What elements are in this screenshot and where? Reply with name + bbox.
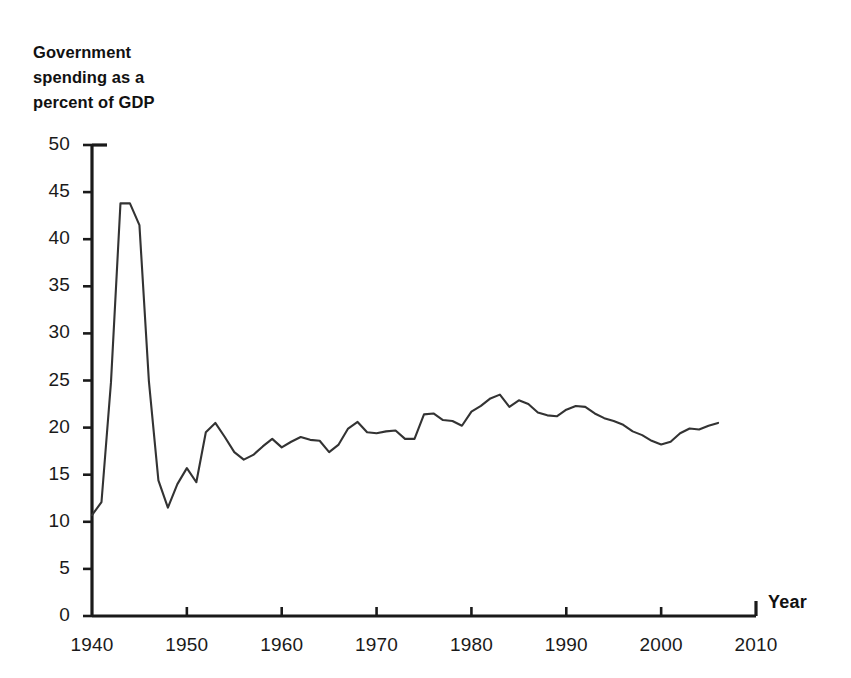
data-series-line (92, 203, 718, 515)
y-axis-tick-label: 25 (30, 369, 70, 391)
x-axis-tick-label: 2010 (721, 634, 791, 656)
x-axis-tick-label: 1970 (342, 634, 412, 656)
x-axis-tick-label: 1940 (57, 634, 127, 656)
y-axis-tick-label: 40 (30, 227, 70, 249)
x-axis-tick-label: 2000 (626, 634, 696, 656)
x-axis-tick-label: 1950 (152, 634, 222, 656)
y-axis-tick-label: 50 (30, 133, 70, 155)
y-axis-tick-label: 0 (30, 604, 70, 626)
y-axis-tick-label: 5 (30, 557, 70, 579)
y-axis-tick-label: 10 (30, 510, 70, 532)
x-axis-tick-label: 1990 (531, 634, 601, 656)
x-axis-title: Year (768, 592, 807, 613)
y-axis-tick-label: 30 (30, 321, 70, 343)
y-axis-tick-label: 15 (30, 463, 70, 485)
y-axis-tick-label: 35 (30, 274, 70, 296)
chart-plot-area (0, 0, 851, 678)
x-axis-tick-label: 1960 (247, 634, 317, 656)
y-axis-tick-label: 20 (30, 416, 70, 438)
chart-figure: Government spending as a percent of GDP … (0, 0, 851, 678)
x-axis-tick-label: 1980 (436, 634, 506, 656)
y-axis-tick-label: 45 (30, 180, 70, 202)
